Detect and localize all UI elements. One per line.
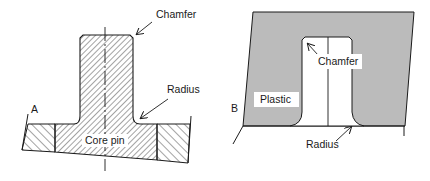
radius-label-b: Radius [306, 139, 339, 150]
figure-b [233, 12, 414, 144]
chamfer-label-a: Chamfer [156, 9, 196, 20]
radius-label-a: Radius [167, 84, 200, 95]
plastic-label: Plastic [254, 92, 299, 107]
mold-block-left [22, 124, 55, 152]
extension-line-b-left [233, 126, 243, 144]
chamfer-arrow-a [137, 22, 152, 34]
figure-letter-b: B [231, 103, 238, 114]
figure-a [22, 22, 191, 171]
radius-arrow-a [141, 99, 168, 118]
mold-block-right [157, 124, 190, 163]
core-pin-label: Core pin [82, 134, 128, 147]
figure-letter-a: A [31, 104, 38, 115]
chamfer-label-b: Chamfer [316, 54, 362, 69]
diagram-canvas [0, 0, 430, 181]
